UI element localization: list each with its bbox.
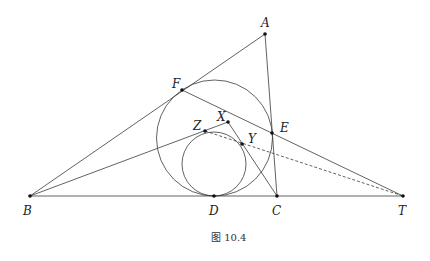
- label-Z: Z: [192, 119, 202, 133]
- point-B: [28, 194, 32, 198]
- point-Z: [203, 129, 207, 133]
- label-X: X: [216, 110, 226, 124]
- label-T: T: [398, 204, 407, 218]
- label-C: C: [272, 204, 281, 218]
- label-F: F: [171, 77, 181, 91]
- point-Y: [240, 142, 244, 146]
- segment-AB: [30, 34, 265, 196]
- label-E: E: [279, 121, 289, 135]
- point-A: [263, 32, 267, 36]
- geometry-figure: A B C D E F T X Y Z 图 10.4: [0, 0, 430, 261]
- label-D: D: [208, 204, 219, 218]
- segment-BZ: [30, 122, 228, 196]
- point-C: [275, 194, 279, 198]
- segment-AC: [265, 34, 277, 196]
- figure-caption: 图 10.4: [211, 232, 246, 243]
- point-T: [401, 194, 405, 198]
- point-E: [270, 131, 274, 135]
- label-Y: Y: [248, 132, 257, 146]
- point-D: [212, 194, 216, 198]
- label-A: A: [260, 16, 270, 30]
- label-B: B: [22, 204, 32, 218]
- point-X: [226, 120, 230, 124]
- inner-circle: [182, 132, 246, 196]
- point-F: [180, 88, 184, 92]
- segment-ZT-dashed: [205, 131, 403, 196]
- segment-FT: [182, 90, 403, 196]
